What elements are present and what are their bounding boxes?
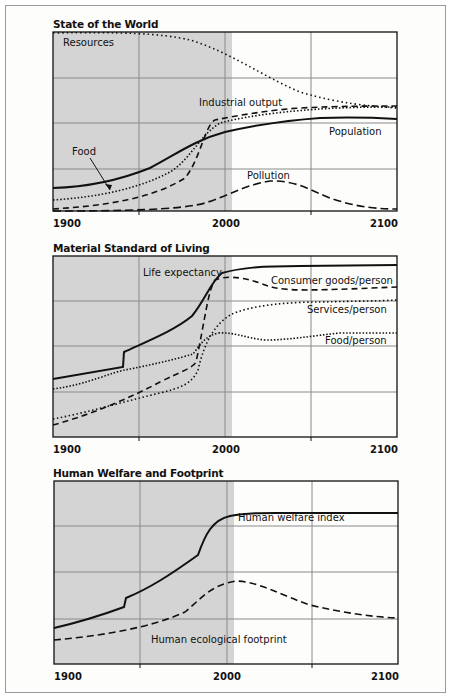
label-human-welfare-index: Human welfare index [238, 512, 345, 523]
x-tick-2000: 2000 [213, 671, 241, 682]
x-tick-1900: 1900 [54, 671, 82, 682]
label-human-ecological-footprint: Human ecological footprint [151, 634, 287, 645]
chart-human-welfare: Human welfare index Human ecological foo… [0, 0, 451, 700]
x-tick-2100: 2100 [371, 671, 399, 682]
